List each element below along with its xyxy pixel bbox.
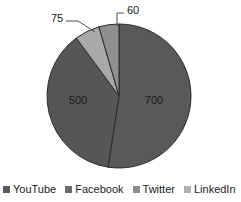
- legend-label-youtube: YouTube: [13, 183, 56, 195]
- legend-label-facebook: Facebook: [75, 183, 123, 195]
- legend-item-linkedin[interactable]: LinkedIn: [184, 183, 236, 195]
- legend-swatch-twitter: [133, 186, 140, 193]
- legend-label-linkedin: LinkedIn: [194, 183, 236, 195]
- pie-svg: 700 500 75 60: [0, 0, 241, 175]
- chart-legend: YouTube Facebook Twitter LinkedIn: [0, 179, 241, 199]
- legend-item-twitter[interactable]: Twitter: [133, 183, 175, 195]
- pie-chart: 700 500 75 60 YouTube Facebook Twitter L…: [0, 0, 241, 202]
- legend-swatch-linkedin: [184, 186, 191, 193]
- legend-item-facebook[interactable]: Facebook: [65, 183, 123, 195]
- legend-swatch-youtube: [3, 186, 10, 193]
- plot-area: 700 500 75 60: [0, 0, 241, 175]
- legend-label-twitter: Twitter: [143, 183, 175, 195]
- data-label-twitter: 75: [51, 12, 63, 24]
- data-label-youtube: 700: [145, 94, 163, 106]
- data-label-linkedin: 60: [127, 4, 139, 16]
- legend-swatch-facebook: [65, 186, 72, 193]
- legend-item-youtube[interactable]: YouTube: [3, 183, 56, 195]
- data-label-facebook: 500: [69, 94, 87, 106]
